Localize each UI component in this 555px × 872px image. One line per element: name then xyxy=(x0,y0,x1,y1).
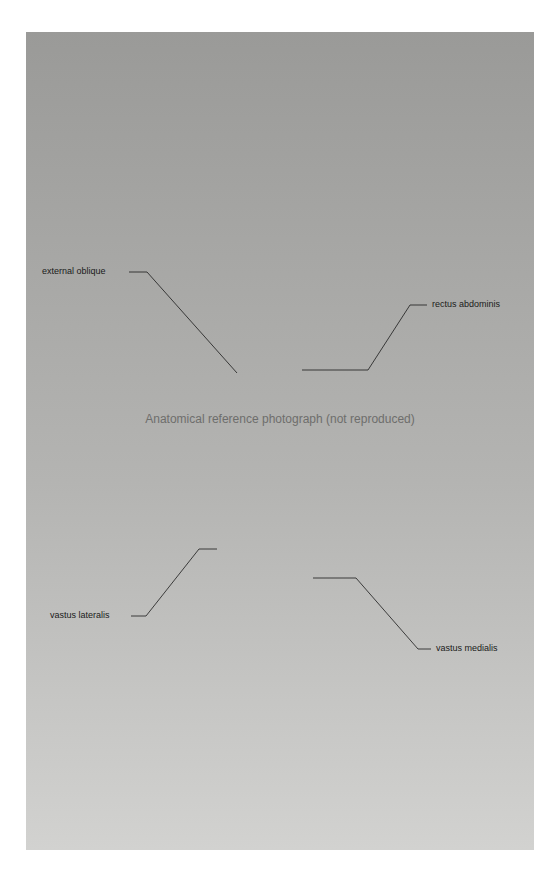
photo-placeholder-panel: Anatomical reference photograph (not rep… xyxy=(26,32,534,850)
label-rectus-abdominis: rectus abdominis xyxy=(432,299,500,309)
label-external-oblique: external oblique xyxy=(42,266,106,276)
label-vastus-lateralis: vastus lateralis xyxy=(50,610,110,620)
placeholder-note: Anatomical reference photograph (not rep… xyxy=(26,412,534,426)
anatomy-figure: Anatomical reference photograph (not rep… xyxy=(0,0,555,872)
label-vastus-medialis: vastus medialis xyxy=(436,643,498,653)
